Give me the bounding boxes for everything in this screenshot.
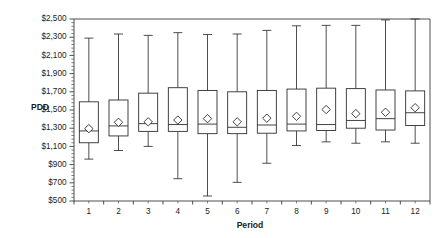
y-tick-label: $1,100 xyxy=(41,142,66,151)
y-tick-label: $1,300 xyxy=(41,123,66,132)
x-tick-label: 1 xyxy=(87,207,92,216)
x-tick-label: 8 xyxy=(294,207,299,216)
y-tick-label: $1,900 xyxy=(41,69,66,78)
y-tick-label: $2,100 xyxy=(41,51,66,60)
box-plot-item xyxy=(317,25,336,141)
box-plot-item xyxy=(139,35,158,146)
y-tick-label: $2,300 xyxy=(41,32,66,41)
x-tick-label: 3 xyxy=(146,207,151,216)
x-tick-label: 10 xyxy=(351,207,361,216)
y-tick-label: $1,700 xyxy=(41,87,66,96)
box-plot-item xyxy=(376,20,395,142)
box-plot-item xyxy=(79,38,98,159)
box-iqr xyxy=(198,90,217,133)
box-plot-item xyxy=(109,34,128,150)
box-plot-item xyxy=(198,34,217,196)
x-tick-label: 11 xyxy=(381,207,390,216)
x-tick-label: 4 xyxy=(176,207,181,216)
box-iqr xyxy=(257,90,276,133)
x-tick-label: 12 xyxy=(411,207,421,216)
box-plot-item xyxy=(287,26,306,146)
box-iqr xyxy=(287,89,306,131)
box-plot-chart: $500$700$900$1,100$1,300$1,500$1,700$1,9… xyxy=(0,0,446,238)
x-tick-label: 7 xyxy=(265,207,270,216)
x-tick-label: 5 xyxy=(205,207,210,216)
x-tick-label: 6 xyxy=(235,207,240,216)
box-series xyxy=(79,19,424,196)
y-tick-label: $900 xyxy=(48,160,67,169)
box-iqr xyxy=(346,89,365,129)
box-plot-item xyxy=(168,33,187,179)
box-plot-item xyxy=(346,25,365,143)
y-tick-label: $500 xyxy=(48,196,67,205)
y-axis-title: PDD xyxy=(31,102,49,112)
plot-svg: $500$700$900$1,100$1,300$1,500$1,700$1,9… xyxy=(0,0,446,238)
y-tick-label: $700 xyxy=(48,178,67,187)
x-axis-title: Period xyxy=(237,220,264,230)
y-tick-label: $2,500 xyxy=(41,14,66,23)
x-axis: 123456789101112 xyxy=(74,201,430,216)
x-tick-label: 2 xyxy=(116,207,121,216)
x-tick-label: 9 xyxy=(324,207,329,216)
box-plot-item xyxy=(406,19,425,143)
box-plot-item xyxy=(257,30,276,163)
box-iqr xyxy=(79,102,98,143)
box-plot-item xyxy=(228,34,247,182)
